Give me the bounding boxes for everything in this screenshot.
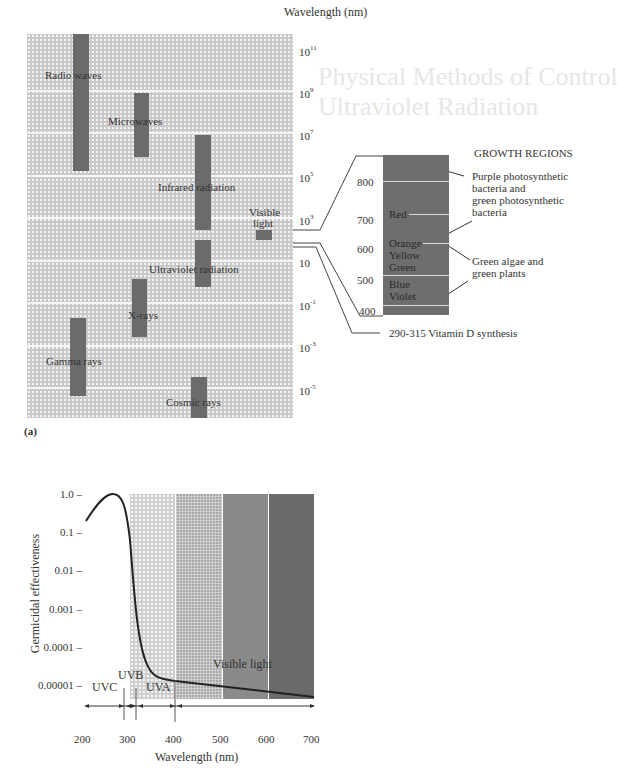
region-visible-light: Visible light <box>213 657 272 672</box>
xtick-700: 700 <box>303 733 320 745</box>
xtick-300: 300 <box>119 733 136 745</box>
xtick-200: 200 <box>74 733 91 745</box>
xtick-500: 500 <box>212 733 229 745</box>
xtick-400: 400 <box>165 733 182 745</box>
region-uvc: UVC <box>92 680 117 695</box>
xtick-600: 600 <box>258 733 275 745</box>
x-axis-title: Wavelength (nm) <box>155 750 238 765</box>
region-uva: UVA <box>146 680 170 695</box>
region-uvb: UVB <box>118 668 143 683</box>
